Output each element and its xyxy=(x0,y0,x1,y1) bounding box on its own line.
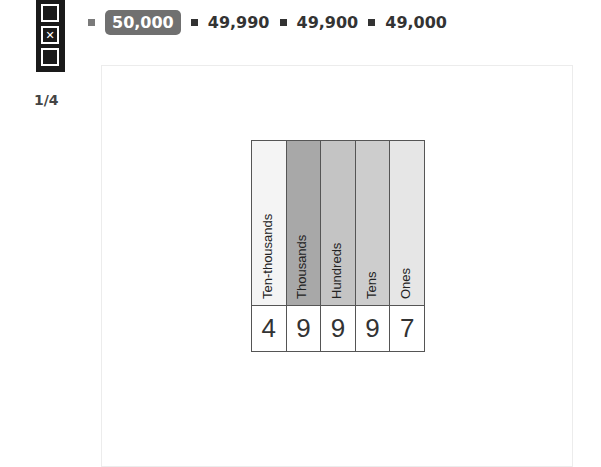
column-label: Tens xyxy=(364,272,379,299)
option-49990[interactable]: 49,990 xyxy=(191,13,270,32)
bullet-icon xyxy=(280,19,287,26)
bullet-icon xyxy=(191,19,198,26)
option-50000[interactable]: 50,000 xyxy=(88,10,181,35)
column-ones: Ones xyxy=(390,141,424,305)
column-label: Ones xyxy=(398,268,413,299)
digit-cell: 7 xyxy=(390,306,424,351)
close-box-icon[interactable]: ✕ xyxy=(41,26,59,44)
bullet-icon xyxy=(88,19,95,26)
digit-cell: 9 xyxy=(287,306,322,351)
tool-strip: ✕ xyxy=(36,0,65,72)
option-label: 49,900 xyxy=(297,13,359,32)
bullet-icon xyxy=(368,19,375,26)
column-hundreds: Hundreds xyxy=(321,141,356,305)
empty-box-icon[interactable] xyxy=(41,48,59,66)
column-tens: Tens xyxy=(356,141,391,305)
column-label: Ten-thousands xyxy=(260,214,275,299)
option-49000[interactable]: 49,000 xyxy=(368,13,447,32)
column-label: Thousands xyxy=(294,235,309,299)
digit-cell: 9 xyxy=(356,306,391,351)
digit-cell: 9 xyxy=(321,306,356,351)
answer-options: 50,000 49,990 49,900 49,000 xyxy=(88,8,457,36)
empty-box-icon[interactable] xyxy=(41,4,59,22)
option-label: 50,000 xyxy=(105,10,181,35)
column-ten-thousands: Ten-thousands xyxy=(252,141,287,305)
option-label: 49,000 xyxy=(385,13,447,32)
place-value-header: Ten-thousands Thousands Hundreds Tens On… xyxy=(252,141,424,306)
place-value-digits: 4 9 9 9 7 xyxy=(252,306,424,351)
option-49900[interactable]: 49,900 xyxy=(280,13,359,32)
digit-cell: 4 xyxy=(252,306,287,351)
column-thousands: Thousands xyxy=(287,141,322,305)
option-label: 49,990 xyxy=(208,13,270,32)
column-label: Hundreds xyxy=(329,243,344,299)
page-indicator: 1/4 xyxy=(34,92,59,108)
place-value-chart: Ten-thousands Thousands Hundreds Tens On… xyxy=(251,140,425,352)
